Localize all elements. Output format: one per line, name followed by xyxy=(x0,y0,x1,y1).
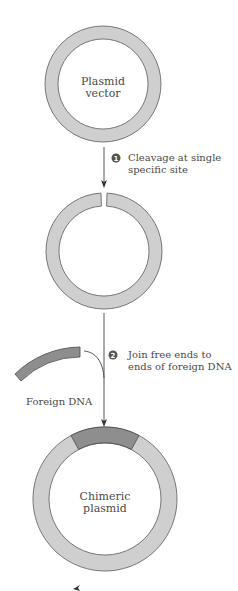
step-2-text-line2: ends of foreign DNA xyxy=(128,361,232,372)
step-1-text-line2: specific site xyxy=(128,164,188,175)
foreign-dna-connector xyxy=(84,351,104,378)
plasmid-vector-label-line2: vector xyxy=(84,87,121,100)
foreign-dna-label: Foreign DNA xyxy=(26,396,93,407)
step-1-badge: 1 xyxy=(112,154,121,164)
chimeric-insert-segment xyxy=(71,427,139,449)
step-1-text-line1: Cleavage at single xyxy=(128,152,221,163)
step-2-text-line1: Join free ends to xyxy=(127,349,211,360)
chimeric-plasmid-label-line2: plasmid xyxy=(83,502,127,515)
cleaved-plasmid-ring xyxy=(46,193,162,309)
step-2-badge: 2 xyxy=(109,351,118,361)
continuation-arrowhead-icon xyxy=(73,585,80,591)
plasmid-cloning-diagram: Plasmid vector 1 Cleavage at single spec… xyxy=(0,0,238,591)
step-2-number: 2 xyxy=(111,352,116,360)
step-1-number: 1 xyxy=(114,155,119,163)
foreign-dna-fragment xyxy=(15,347,80,381)
